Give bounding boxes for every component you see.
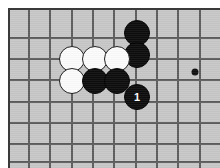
grid-line-horizontal-5 <box>10 143 220 145</box>
go-board-frame: 1 <box>8 8 220 168</box>
go-stone-black-move-1[interactable]: 1 <box>124 84 150 110</box>
grid-line-horizontal-0 <box>10 37 220 39</box>
go-board-surface: 1 <box>10 10 220 168</box>
grid-line-horizontal-4 <box>10 122 220 124</box>
go-diagram: 1 <box>0 0 220 168</box>
grid-line-horizontal-3 <box>10 101 220 103</box>
grid-line-horizontal-6 <box>10 161 220 163</box>
hoshi-right-icon <box>192 69 199 76</box>
go-stone-move-number: 1 <box>125 85 149 109</box>
